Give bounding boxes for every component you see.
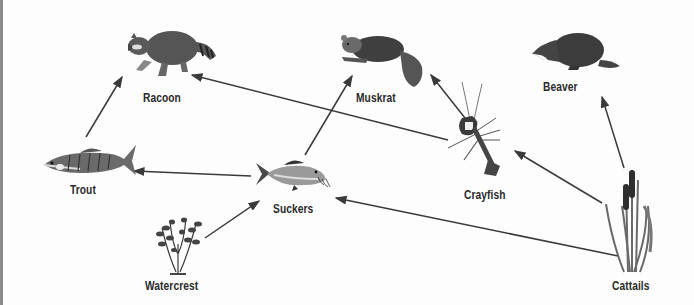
label-muskrat: Muskrat bbox=[356, 91, 396, 105]
label-crayfish: Crayfish bbox=[464, 188, 506, 202]
arrow-cattails-to-beaver bbox=[602, 97, 624, 168]
crayfish-icon bbox=[448, 80, 516, 180]
racoon-icon bbox=[122, 24, 218, 82]
arrow-cattails-to-suckers bbox=[336, 198, 618, 256]
label-suckers: Suckers bbox=[273, 202, 313, 216]
trout-icon bbox=[40, 141, 138, 181]
watercrest-icon bbox=[152, 214, 204, 276]
label-racoon: Racoon bbox=[143, 91, 181, 105]
label-watercrest: Watercrest bbox=[145, 279, 198, 293]
label-cattails: Cattails bbox=[612, 279, 650, 293]
beaver-icon bbox=[528, 30, 622, 76]
arrow-watercrest-to-suckers bbox=[205, 201, 259, 238]
label-beaver: Beaver bbox=[543, 80, 578, 94]
food-web-diagram: Racoon Muskrat Beaver Trout Suck bbox=[0, 0, 694, 305]
arrow-suckers-to-trout bbox=[134, 171, 251, 176]
arrow-trout-to-racoon bbox=[86, 77, 122, 137]
suckers-icon bbox=[254, 157, 332, 193]
muskrat-icon bbox=[340, 33, 426, 89]
cattails-icon bbox=[604, 162, 658, 274]
arrow-cattails-to-crayfish bbox=[515, 151, 602, 203]
label-trout: Trout bbox=[70, 183, 96, 197]
